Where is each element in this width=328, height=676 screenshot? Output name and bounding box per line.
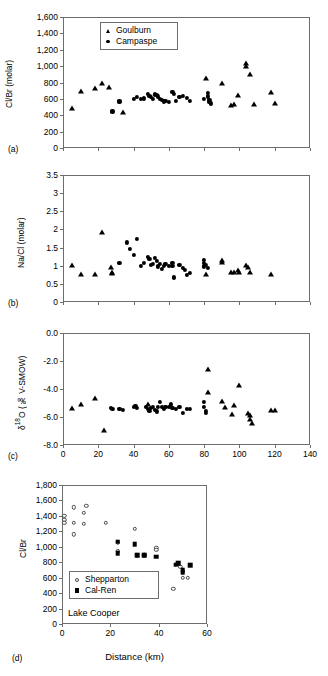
y-tick-label: -2.0: [14, 357, 58, 366]
y-tick-label: -8.0: [14, 441, 58, 450]
y-tickmark: [60, 132, 63, 133]
y-tickmark: [60, 248, 63, 249]
data-point-square: [188, 563, 193, 568]
y-tickmark: [60, 284, 63, 285]
panel-a: Cl/Br (molar) (a) 02004006008001,0001,20…: [0, 0, 328, 170]
legend-entry-calren: Cal-Ren: [73, 585, 153, 596]
y-tickmark: [60, 417, 63, 418]
data-point-square: [115, 539, 120, 544]
y-tickmark: [60, 361, 63, 362]
data-point-triangle: [219, 398, 225, 403]
y-tick-label: 1,000: [13, 543, 57, 552]
y-tickmark: [60, 66, 63, 67]
y-tickmark: [59, 609, 62, 610]
x-tickmark: [310, 148, 311, 151]
data-point-triangle: [243, 63, 249, 68]
legend-label-calren: Cal-Ren: [85, 586, 116, 595]
y-tick-label: 200: [14, 128, 58, 137]
data-point-triangle: [231, 403, 237, 408]
y-tick-label: 3.5: [14, 171, 58, 180]
y-tickmark: [60, 211, 63, 212]
x-tick-label: 40: [119, 450, 149, 459]
data-point-triangle: [272, 100, 278, 105]
data-point-triangle: [109, 271, 115, 276]
data-point-triangle: [203, 75, 209, 80]
y-tick-label: 400: [14, 111, 58, 120]
panel-b-plot-area: [63, 175, 310, 302]
data-point-triangle: [205, 389, 211, 394]
open-circle-marker-icon: [73, 578, 81, 582]
y-tick-label: 0: [14, 298, 58, 307]
y-tickmark: [60, 83, 63, 84]
data-point-triangle: [203, 272, 209, 277]
x-tickmark: [159, 624, 160, 627]
data-point-triangle: [120, 110, 126, 115]
y-tick-label: 800: [13, 558, 57, 567]
data-point-triangle: [268, 89, 274, 94]
data-point-square: [132, 542, 137, 547]
x-tickmark: [204, 302, 205, 305]
data-point-triangle: [249, 421, 255, 426]
x-tickmark: [169, 302, 170, 305]
data-point-square: [115, 551, 120, 556]
data-point-triangle: [268, 271, 274, 276]
x-tickmark: [134, 302, 135, 305]
x-tickmark: [239, 445, 240, 448]
data-point-triangle: [99, 80, 105, 85]
legend-label-campaspe: Campaspe: [116, 37, 157, 46]
x-tickmark: [207, 624, 208, 627]
data-point-triangle: [69, 105, 75, 110]
legend-entry-goulburn: Goulburn: [104, 25, 172, 36]
data-point-triangle: [69, 262, 75, 267]
legend-entry-campaspe: Campaspe: [104, 36, 172, 47]
data-point-triangle: [222, 405, 228, 410]
x-tick-label: 0: [48, 450, 78, 459]
scientific-figure: Cl/Br (molar) (a) 02004006008001,0001,20…: [0, 0, 328, 676]
data-point-triangle: [78, 271, 84, 276]
y-tickmark: [59, 547, 62, 548]
x-tickmark: [63, 445, 64, 448]
data-point-triangle: [229, 412, 235, 417]
panel-d: Cl/Br (d) 02004006008001,0001,2001,4001,…: [0, 475, 328, 676]
circle-marker-icon: [104, 40, 112, 44]
data-point-triangle: [92, 396, 98, 401]
x-tickmark: [275, 148, 276, 151]
data-point-triangle: [272, 408, 278, 413]
data-point-triangle: [69, 405, 75, 410]
panel-d-legend: Shepparton Cal-Ren: [69, 571, 159, 599]
panel-b: Na/Cl (molar) (b) 00.511.522.533.5: [0, 170, 328, 325]
x-tickmark: [239, 148, 240, 151]
x-tickmark: [310, 302, 311, 305]
legend-label-shepparton: Shepparton: [85, 575, 129, 584]
data-point-square: [176, 561, 181, 566]
y-tickmark: [60, 266, 63, 267]
y-tick-label: 0: [13, 620, 57, 629]
y-tick-label: 0: [14, 144, 58, 153]
data-point-triangle: [78, 89, 84, 94]
data-point-triangle: [92, 272, 98, 277]
data-point-triangle: [247, 270, 253, 275]
y-tick-label: 0.0: [14, 329, 58, 338]
legend-label-goulburn: Goulburn: [116, 26, 151, 35]
y-tick-label: 1,600: [13, 496, 57, 505]
data-point-triangle: [78, 402, 84, 407]
data-point-triangle: [99, 229, 105, 234]
data-point-triangle: [245, 264, 251, 269]
y-tickmark: [60, 33, 63, 34]
x-tickmark: [275, 445, 276, 448]
x-tick-label: 120: [260, 450, 290, 459]
y-tick-label: 200: [13, 605, 57, 614]
data-point-square: [142, 553, 147, 558]
triangle-marker-icon: [104, 29, 112, 33]
panel-d-id: (d): [12, 653, 22, 663]
x-tickmark: [204, 445, 205, 448]
y-tickmark: [59, 485, 62, 486]
panel-d-annotation: Lake Cooper: [68, 608, 120, 618]
x-tick-label: 80: [189, 450, 219, 459]
x-tickmark: [63, 302, 64, 305]
y-tick-label: 0.5: [14, 280, 58, 289]
x-tickmark: [134, 445, 135, 448]
data-point-triangle: [92, 86, 98, 91]
y-tick-label: 1,200: [13, 527, 57, 536]
y-tick-label: 1.5: [14, 244, 58, 253]
